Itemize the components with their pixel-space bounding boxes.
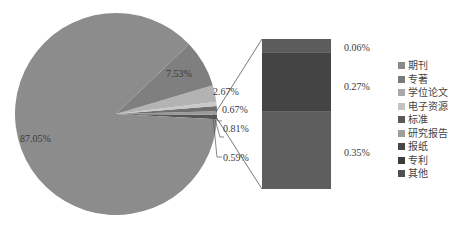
legend-item-report: 研究报告 [398,127,448,141]
label-other: 0.06% [344,42,370,53]
swatch-icon [398,89,405,96]
label-standard: 0.81% [223,123,249,134]
legend-item-journal: 期刊 [398,59,448,73]
label-monograph: 7.53% [166,68,192,79]
legend-item-standard: 标准 [398,113,448,127]
label-newspaper: 0.35% [344,147,370,158]
label-journal: 87.05% [20,133,51,144]
label-electronic: 0.67% [222,104,248,115]
bar-segment [262,52,331,112]
bar-segment [262,39,331,52]
legend-item-patent: 专利 [398,154,448,168]
legend-item-monograph: 专著 [398,73,448,87]
stacked-bar [262,39,331,189]
label-patent: 0.27% [344,81,370,92]
swatch-icon [398,157,405,164]
swatch-icon [398,116,405,123]
legend: 期刊 专著 学位论文 电子资源 标准 研究报告 报纸 专利 其他 [398,59,448,181]
swatch-icon [398,130,405,137]
label-report: 0.59% [223,152,249,163]
pie-chart [15,13,217,215]
legend-item-electronic: 电子资源 [398,100,448,114]
swatch-icon [398,143,405,150]
legend-item-thesis: 学位论文 [398,86,448,100]
swatch-icon [398,170,405,177]
bar-segment [262,112,331,189]
label-thesis: 2.67% [213,86,239,97]
swatch-icon [398,76,405,83]
swatch-icon [398,62,405,69]
swatch-icon [398,103,405,110]
legend-item-newspaper: 报纸 [398,140,448,154]
legend-item-other: 其他 [398,167,448,181]
